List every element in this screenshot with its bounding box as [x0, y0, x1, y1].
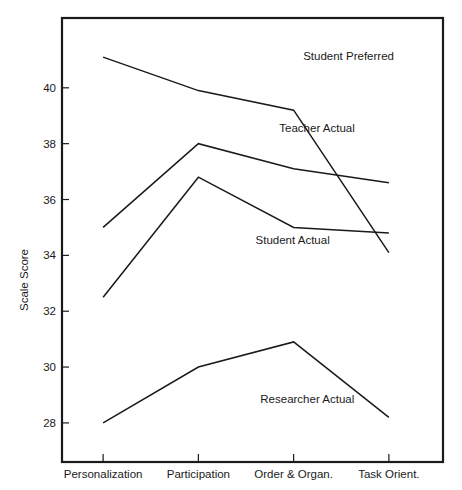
- plot-frame: [62, 18, 443, 462]
- x-tick-label-1: Participation: [167, 468, 230, 480]
- y-tick-label: 32: [43, 305, 56, 317]
- chart-canvas: 28303234363840 PersonalizationParticipat…: [0, 0, 462, 490]
- y-tick-label: 36: [43, 194, 56, 206]
- series-label-3: Researcher Actual: [260, 393, 354, 405]
- series-line-3: [103, 342, 389, 423]
- y-tick-label: 34: [43, 249, 56, 261]
- series-label-2: Student Actual: [256, 234, 330, 246]
- series-label-0: Student Preferred: [303, 50, 394, 62]
- x-tick-label-0: Personalization: [64, 468, 143, 480]
- y-tick-label: 38: [43, 138, 56, 150]
- y-axis-title: Scale Score: [18, 249, 30, 311]
- series-label-1: Teacher Actual: [279, 122, 354, 134]
- y-tick-label: 28: [43, 417, 56, 429]
- series-labels-group: Student PreferredTeacher ActualStudent A…: [256, 50, 394, 405]
- y-tick-label: 30: [43, 361, 56, 373]
- y-axis-ticks: 28303234363840: [43, 82, 69, 429]
- line-chart: 28303234363840 PersonalizationParticipat…: [0, 0, 462, 490]
- series-lines-group: [103, 57, 389, 423]
- series-line-1: [103, 144, 389, 228]
- series-line-2: [103, 177, 389, 297]
- series-line-0: [103, 57, 389, 252]
- x-tick-label-3: Task Orient.: [358, 468, 419, 480]
- x-tick-label-2: Order & Organ.: [254, 468, 333, 480]
- x-axis-ticks: PersonalizationParticipationOrder & Orga…: [64, 454, 420, 480]
- y-tick-label: 40: [43, 82, 56, 94]
